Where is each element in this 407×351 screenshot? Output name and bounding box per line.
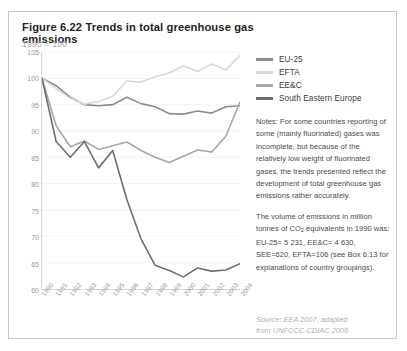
y-tick-label: 80 <box>31 181 39 188</box>
legend-item-ee-c: EE&C <box>256 79 388 92</box>
figure-subtitle: 1990 = 100 <box>22 39 67 49</box>
figure-card: Figure 6.22 Trends in total greenhouse g… <box>8 11 397 339</box>
y-tick-label: 60 <box>31 287 39 294</box>
legend-item-south-eastern-europe: South Eastern Europe <box>256 92 388 105</box>
series-line-efta <box>42 56 240 104</box>
y-axis-labels: 6065707580859095100105 <box>22 52 39 290</box>
x-tick-label: 2004 <box>239 281 254 297</box>
y-tick-label: 100 <box>27 75 39 82</box>
legend-label: South Eastern Europe <box>279 94 362 103</box>
chart-plot-area: 6065707580859095100105 19901991199219931… <box>22 52 240 314</box>
series-line-eu-25 <box>42 78 240 114</box>
source-line-2: from UNFCCC-CDIAC 2006 <box>256 326 390 337</box>
legend-swatch-icon <box>256 58 273 60</box>
legend-label: EU-25 <box>279 55 303 64</box>
legend-label: EFTA <box>279 68 300 77</box>
legend-item-efta: EFTA <box>256 66 388 79</box>
series-line-ee-c <box>42 78 240 162</box>
legend-label: EE&C <box>279 81 302 90</box>
notes-block: Notes: For some countries reporting of s… <box>256 116 390 282</box>
y-tick-label: 105 <box>27 49 39 56</box>
legend-swatch-icon <box>256 71 273 73</box>
y-tick-label: 95 <box>31 101 39 108</box>
legend-swatch-icon <box>256 97 273 99</box>
y-tick-label: 65 <box>31 260 39 267</box>
chart-legend: EU-25EFTAEE&CSouth Eastern Europe <box>256 53 388 105</box>
y-tick-label: 70 <box>31 234 39 241</box>
chart-canvas <box>41 52 240 290</box>
source-credit: Source: EEA 2007, adapted from UNFCCC-CD… <box>256 315 390 336</box>
y-tick-label: 85 <box>31 154 39 161</box>
chart-svg <box>42 52 240 289</box>
y-tick-label: 90 <box>31 128 39 135</box>
y-tick-label: 75 <box>31 207 39 214</box>
legend-item-eu-25: EU-25 <box>256 53 388 66</box>
note-paragraph: Notes: For some countries reporting of s… <box>256 116 390 203</box>
note-paragraph: The volume of emissions in million tonne… <box>256 211 390 274</box>
x-axis-labels: 1990199119921993199419951996199719981999… <box>41 291 240 315</box>
series-line-south-eastern-europe <box>42 78 240 277</box>
source-line-1: Source: EEA 2007, adapted <box>256 315 390 326</box>
legend-swatch-icon <box>256 84 273 86</box>
